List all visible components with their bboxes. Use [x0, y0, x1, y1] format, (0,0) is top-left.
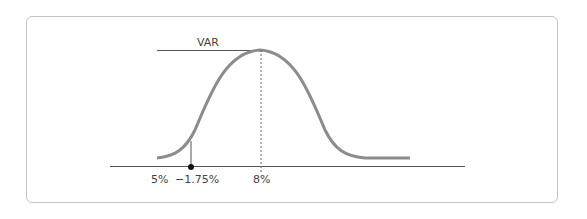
mean-label: 8% [253, 173, 270, 186]
five-pct-label: 5% [151, 173, 168, 186]
bell-curve [157, 50, 410, 158]
distribution-diagram: VAR 5% −1.75% 8% [0, 0, 587, 219]
var-label: VAR [197, 36, 219, 49]
cutoff-marker [188, 164, 194, 170]
cutoff-label: −1.75% [175, 173, 219, 186]
